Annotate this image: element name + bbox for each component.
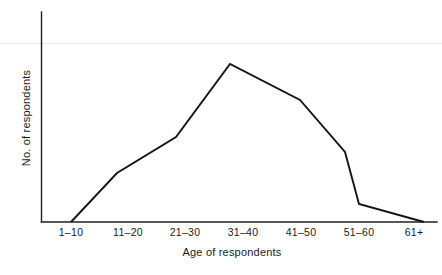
y-axis-title: No. of respondents (20, 69, 32, 166)
data-series-line (71, 64, 424, 222)
chart-container: 1–10 11–20 21–30 31–40 41–50 51–60 61+ A… (0, 0, 442, 275)
x-tick-label-1: 1–10 (59, 226, 84, 238)
x-tick-label-5: 41–50 (286, 226, 317, 238)
x-tick-label-7: 61+ (405, 226, 424, 238)
x-axis-title: Age of respondents (182, 246, 281, 258)
x-tick-label-4: 31–40 (228, 226, 259, 238)
x-tick-label-6: 51–60 (344, 226, 375, 238)
x-tick-label-3: 21–30 (170, 226, 201, 238)
line-chart: 1–10 11–20 21–30 31–40 41–50 51–60 61+ A… (0, 0, 442, 275)
x-tick-label-2: 11–20 (113, 226, 143, 238)
